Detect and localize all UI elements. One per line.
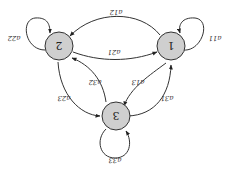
edge-label-a33: a33 <box>108 156 122 164</box>
node-label-3: 3 <box>113 109 120 122</box>
edge-label-a22: a22 <box>7 34 21 42</box>
state-diagram: 1 2 3 a11 a22 a33 a12 a21 a23 a32 a13 a3… <box>0 0 230 172</box>
node-label-1: 1 <box>168 39 175 52</box>
edge-label-a13: a13 <box>131 78 145 86</box>
edge-1-2 <box>70 16 160 36</box>
edge-3-3 <box>100 129 130 158</box>
edge-2-3 <box>58 62 100 116</box>
edge-label-a11: a11 <box>208 34 221 42</box>
state-node-3: 3 <box>102 102 130 130</box>
edge-3-1 <box>128 65 171 116</box>
state-node-1: 1 <box>157 32 185 60</box>
state-node-2: 2 <box>45 32 73 60</box>
edge-label-a23: a23 <box>57 94 71 102</box>
edge-label-a12: a12 <box>109 8 123 16</box>
edge-label-a32: a32 <box>88 78 102 86</box>
edge-label-a21: a21 <box>107 48 120 56</box>
node-label-2: 2 <box>56 39 63 52</box>
edge-label-a31: a31 <box>160 94 173 102</box>
